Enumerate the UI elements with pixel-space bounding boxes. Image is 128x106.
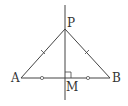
- label-m: M: [66, 80, 78, 94]
- segment-ap: [21, 29, 65, 78]
- right-angle-marker: [65, 72, 71, 78]
- label-a: A: [10, 71, 20, 85]
- label-p: P: [67, 16, 75, 30]
- equal-mark-am: [40, 76, 43, 79]
- label-b: B: [112, 71, 121, 85]
- equal-mark-mb: [86, 76, 89, 79]
- diagram-canvas: P A B M: [0, 0, 128, 106]
- segment-pb: [65, 29, 110, 78]
- geometry-diagram: P A B M: [0, 0, 128, 106]
